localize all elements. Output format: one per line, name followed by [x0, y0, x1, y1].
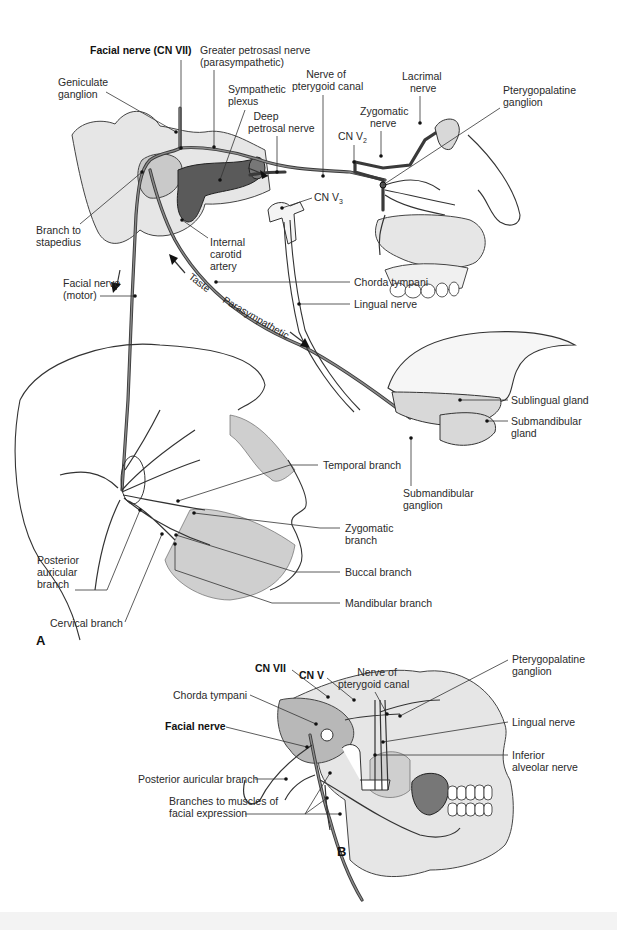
svg-text:pterygoid canal: pterygoid canal — [338, 678, 409, 690]
label-deep-petrosal: Deep — [253, 110, 278, 122]
svg-text:(parasympathetic): (parasympathetic) — [200, 56, 284, 68]
label-sublingual-gland: Sublingual gland — [511, 394, 589, 406]
svg-text:facial expression: facial expression — [169, 807, 247, 819]
label-zygomatic-nerve: Zygomatic — [360, 105, 408, 117]
label-chorda-tympani: Chorda tympani — [354, 276, 428, 288]
label-submandibular-ganglion: Submandibular — [403, 487, 474, 499]
svg-text:ganglion: ganglion — [403, 499, 443, 511]
submandibular-gland — [440, 413, 496, 446]
bottom-scan-band — [0, 912, 617, 930]
cn-v3-illustration — [268, 202, 360, 412]
label-internal-carotid-artery: Internal — [210, 236, 245, 248]
label-b-inferior-alveolar-nerve: Inferior — [512, 749, 545, 761]
label-b-cn-vii: CN VII — [255, 662, 286, 674]
label-temporal-branch: Temporal branch — [323, 459, 401, 471]
label-b-cn-v: CN V — [299, 669, 324, 681]
label-cn-v2: CN V2 — [338, 130, 367, 144]
label-submandibular-gland: Submandibular — [511, 415, 582, 427]
label-posterior-auricular-branch: Posterior — [37, 554, 80, 566]
svg-text:ganglion: ganglion — [512, 665, 552, 677]
svg-text:carotid: carotid — [210, 248, 242, 260]
svg-text:alveolar nerve: alveolar nerve — [512, 761, 578, 773]
label-greater-petrosal: Greater petrosasl nerve — [200, 44, 310, 56]
label-lingual-nerve: Lingual nerve — [354, 298, 417, 310]
label-b-chorda-tympani: Chorda tympani — [173, 689, 247, 701]
label-lacrimal-nerve: Lacrimal — [402, 70, 442, 82]
label-mandibular-branch: Mandibular branch — [345, 597, 432, 609]
panel-a-nose-illustration — [355, 119, 520, 298]
label-nerve-pterygoid-canal: Nerve of — [306, 68, 346, 80]
tongue-illustration — [388, 332, 575, 446]
svg-text:plexus: plexus — [228, 95, 258, 107]
label-cervical-branch: Cervical branch — [50, 617, 123, 629]
label-geniculate-ganglion: Geniculate — [58, 76, 108, 88]
label-zygomatic-branch: Zygomatic — [345, 522, 393, 534]
svg-text:ganglion: ganglion — [503, 96, 543, 108]
label-b-posterior-auricular-branch: Posterior auricular branch — [138, 773, 258, 785]
svg-text:artery: artery — [210, 260, 238, 272]
label-pterygopalatine-ganglion: Pterygopalatine — [503, 84, 576, 96]
svg-text:gland: gland — [511, 427, 537, 439]
svg-text:(motor): (motor) — [63, 289, 97, 301]
label-facial-nerve-motor: Facial nerve — [63, 277, 120, 289]
label-b-pterygopalatine-ganglion: Pterygopalatine — [512, 653, 585, 665]
label-branch-to-stapedius: Branch to — [36, 224, 81, 236]
label-facial-nerve-cn-vii: Facial nerve (CN VII) — [90, 44, 192, 56]
label-b-lingual-nerve: Lingual nerve — [512, 716, 575, 728]
label-b-nerve-pterygoid-canal: Nerve of — [357, 666, 397, 678]
panel-a-head-illustration — [15, 344, 306, 640]
svg-text:nerve: nerve — [410, 82, 436, 94]
label-cn-v3: CN V3 — [314, 191, 343, 205]
svg-text:petrosal nerve: petrosal nerve — [248, 122, 315, 134]
label-b-facial-nerve: Facial nerve — [165, 720, 226, 732]
svg-text:auricular: auricular — [37, 566, 78, 578]
label-sympathetic-plexus: Sympathetic — [228, 83, 286, 95]
svg-text:nerve: nerve — [370, 117, 396, 129]
svg-text:ganglion: ganglion — [58, 88, 98, 100]
label-buccal-branch: Buccal branch — [345, 566, 412, 578]
label-parasympathetic: Parasympathetic — [221, 294, 291, 341]
facial-nerve-diagram: Facial nerve (CN VII) Greater petrosasl … — [0, 0, 617, 930]
lacrimal-gland — [435, 119, 459, 150]
svg-text:pterygoid canal: pterygoid canal — [292, 80, 363, 92]
panel-label-a: A — [36, 633, 46, 648]
svg-text:stapedius: stapedius — [36, 236, 81, 248]
panel-b-illustration — [244, 670, 514, 900]
svg-text:branch: branch — [37, 578, 69, 590]
label-b-branches-muscles: Branches to muscles of — [169, 795, 278, 807]
svg-text:branch: branch — [345, 534, 377, 546]
panel-label-b: B — [337, 844, 346, 859]
